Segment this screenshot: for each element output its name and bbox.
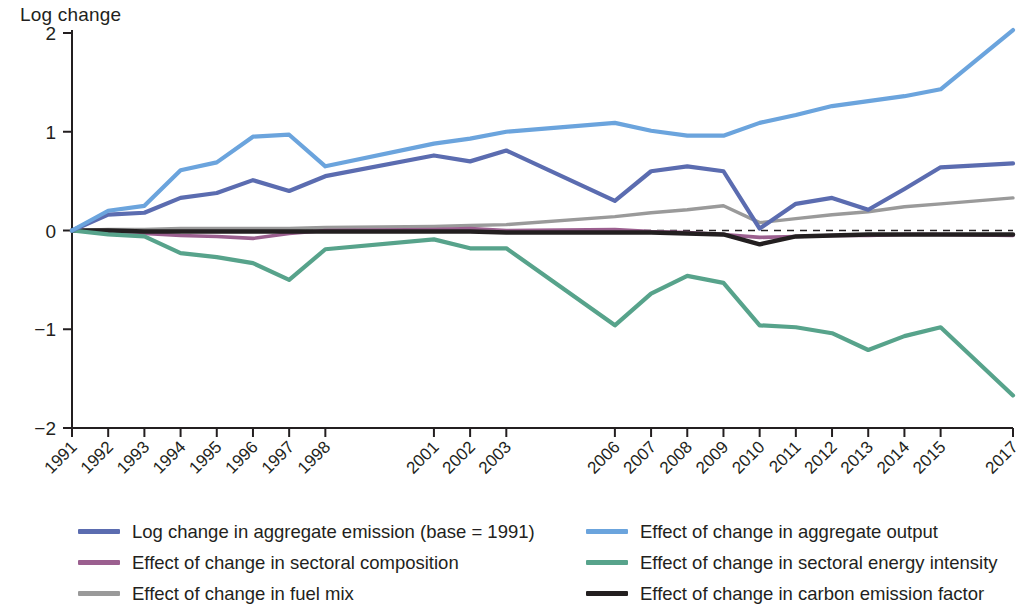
legend-label-carbon-emission-factor: Effect of change in carbon emission fact…: [640, 583, 984, 605]
x-tick-label: 1994: [149, 437, 189, 477]
legend-item-sectoral-composition: Effect of change in sectoral composition: [78, 547, 578, 578]
series-line: [72, 198, 1013, 231]
x-tick-label: 1996: [222, 437, 262, 477]
legend-item-sectoral-energy-intensity: Effect of change in sectoral energy inte…: [586, 547, 1031, 578]
chart-container: Log change −2−10121991199219931994199519…: [0, 0, 1031, 611]
y-tick-label: 2: [45, 23, 56, 44]
x-tick-label: 2007: [620, 437, 660, 477]
x-tick-label: 2003: [475, 437, 515, 477]
x-tick-label: 2011: [765, 437, 804, 476]
legend-label-sectoral-energy-intensity: Effect of change in sectoral energy inte…: [640, 552, 998, 574]
x-tick-label: 1992: [77, 437, 117, 477]
series-line: [72, 231, 1013, 396]
legend-swatch-carbon-emission-factor: [586, 591, 628, 596]
legend-swatch-sectoral-composition: [78, 560, 120, 565]
legend-label-aggregate-emission: Log change in aggregate emission (base =…: [132, 521, 535, 543]
x-tick-label: 2001: [403, 437, 443, 477]
y-tick-label: 1: [45, 122, 56, 143]
legend-label-aggregate-output: Effect of change in aggregate output: [640, 521, 938, 543]
legend-swatch-aggregate-emission: [78, 529, 120, 534]
y-tick-label: −2: [34, 418, 56, 439]
legend-label-fuel-mix: Effect of change in fuel mix: [132, 583, 354, 605]
x-tick-label: 1995: [185, 437, 225, 477]
legend-swatch-aggregate-output: [586, 529, 628, 534]
x-tick-label: 1998: [294, 437, 334, 477]
legend-swatch-sectoral-energy-intensity: [586, 560, 628, 565]
x-tick-label: 1997: [258, 437, 298, 477]
legend-item-aggregate-emission: Log change in aggregate emission (base =…: [78, 516, 578, 547]
legend-column-left: Log change in aggregate emission (base =…: [78, 516, 578, 609]
x-tick-label: 2014: [873, 437, 913, 477]
x-tick-label: 2017: [982, 437, 1022, 477]
series-line: [72, 30, 1013, 230]
x-tick-label: 2010: [728, 437, 768, 477]
x-tick-label: 1993: [113, 437, 153, 477]
x-tick-label: 1991: [41, 437, 81, 477]
legend-column-right: Effect of change in aggregate output Eff…: [586, 516, 1031, 609]
legend-item-fuel-mix: Effect of change in fuel mix: [78, 578, 578, 609]
legend-item-aggregate-output: Effect of change in aggregate output: [586, 516, 1031, 547]
y-tick-label: 0: [45, 221, 56, 242]
legend-item-carbon-emission-factor: Effect of change in carbon emission fact…: [586, 578, 1031, 609]
x-tick-label: 2015: [909, 437, 949, 477]
x-tick-label: 2012: [801, 437, 841, 477]
y-tick-label: −1: [34, 319, 56, 340]
x-tick-label: 2008: [656, 437, 696, 477]
x-tick-label: 2006: [584, 437, 624, 477]
x-tick-label: 2002: [439, 437, 479, 477]
legend-label-sectoral-composition: Effect of change in sectoral composition: [132, 552, 459, 574]
x-tick-label: 2009: [692, 437, 732, 477]
legend-swatch-fuel-mix: [78, 591, 120, 596]
x-tick-label: 2013: [837, 437, 877, 477]
chart-legend: Log change in aggregate emission (base =…: [0, 516, 1031, 611]
